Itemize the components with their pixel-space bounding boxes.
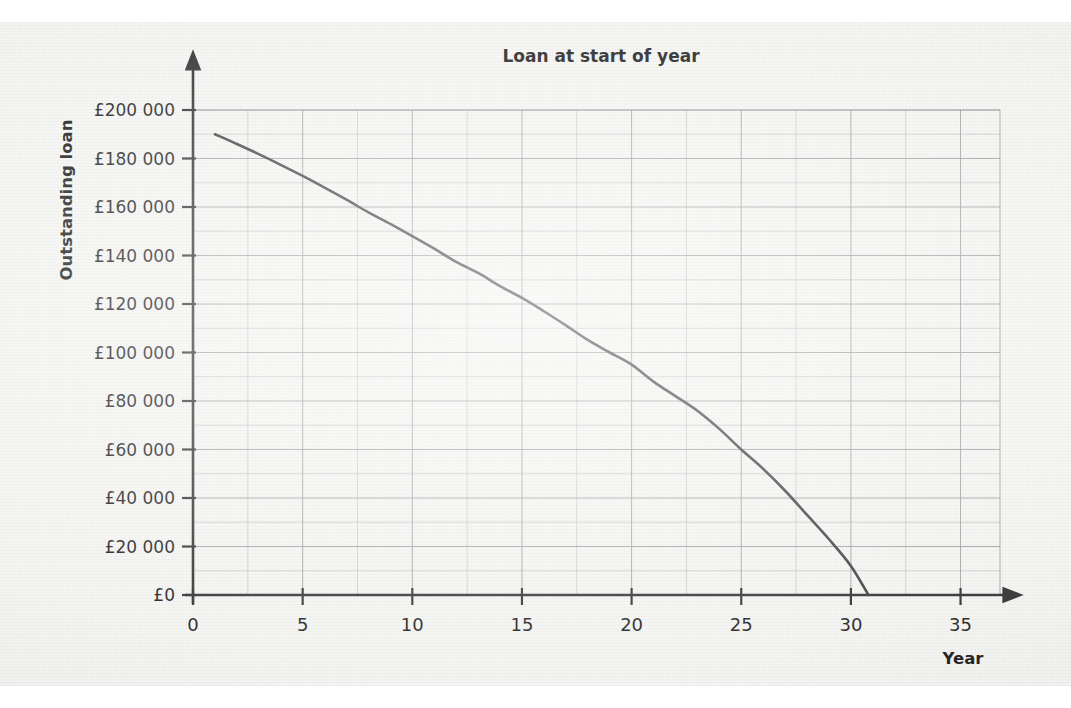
x-axis-tick-label: 5 bbox=[297, 614, 308, 635]
y-axis-tick-label: £100 000 bbox=[94, 343, 175, 363]
x-axis-title: Year bbox=[942, 649, 985, 668]
loan-chart: £0£20 000£40 000£60 000£80 000£100 000£1… bbox=[0, 0, 1071, 708]
y-axis-title: Outstanding loan bbox=[57, 120, 76, 281]
y-axis-tick-label: £60 000 bbox=[105, 440, 175, 460]
x-axis-tick-label: 20 bbox=[620, 614, 643, 635]
x-axis-tick-labels: 05101520253035 bbox=[187, 614, 972, 635]
chart-page: £0£20 000£40 000£60 000£80 000£100 000£1… bbox=[0, 0, 1071, 708]
y-axis-tick-label: £120 000 bbox=[94, 294, 175, 314]
y-axis-tick-label: £200 000 bbox=[94, 100, 175, 120]
y-axis-tick-label: £20 000 bbox=[105, 537, 175, 557]
y-axis-tick-label: £180 000 bbox=[94, 149, 175, 169]
y-axis-tick-label: £0 bbox=[153, 585, 175, 605]
x-axis-tick-label: 10 bbox=[401, 614, 424, 635]
chart-title: Loan at start of year bbox=[502, 46, 700, 66]
y-axis-tick-labels: £0£20 000£40 000£60 000£80 000£100 000£1… bbox=[94, 100, 175, 605]
y-axis-tick-label: £140 000 bbox=[94, 246, 175, 266]
x-axis-tick-label: 15 bbox=[510, 614, 533, 635]
x-axis-tick-label: 0 bbox=[187, 614, 198, 635]
y-axis-tick-label: £160 000 bbox=[94, 197, 175, 217]
y-axis-tick-label: £80 000 bbox=[105, 391, 175, 411]
x-axis-tick-label: 35 bbox=[949, 614, 972, 635]
y-axis-tick-label: £40 000 bbox=[105, 488, 175, 508]
x-axis-tick-label: 30 bbox=[839, 614, 862, 635]
loan-curve-line bbox=[215, 134, 869, 595]
x-axis-tick-label: 25 bbox=[730, 614, 753, 635]
